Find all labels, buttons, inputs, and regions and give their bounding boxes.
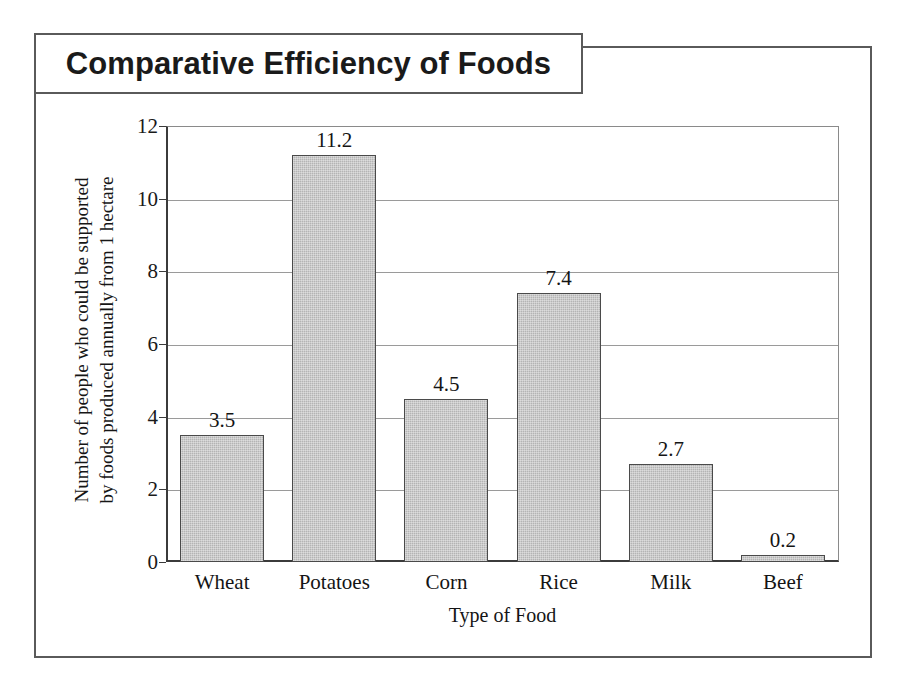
x-axis-category-label: Milk <box>611 570 731 595</box>
bar-value-label: 4.5 <box>396 372 496 397</box>
y-axis-tick-label: 2 <box>118 477 158 502</box>
y-axis-tick-label: 0 <box>118 550 158 575</box>
y-axis-tick-mark <box>159 562 166 563</box>
bar-value-label: 0.2 <box>733 528 833 553</box>
y-axis-tick-mark <box>159 489 166 490</box>
y-axis-tick-label: 12 <box>118 114 158 139</box>
bar-value-label: 2.7 <box>621 437 721 462</box>
y-axis-tick-label: 4 <box>118 404 158 429</box>
bar <box>741 555 825 562</box>
chart-title-box: Comparative Efficiency of Foods <box>34 33 583 94</box>
gridline <box>168 200 838 201</box>
bar-value-label: 7.4 <box>509 266 609 291</box>
chart-page: { "chart_data": { "type": "bar", "title"… <box>0 0 906 690</box>
y-axis-tick-label: 6 <box>118 332 158 357</box>
bar <box>517 293 601 562</box>
bar <box>180 435 264 562</box>
x-axis-category-label: Beef <box>723 570 843 595</box>
y-axis-tick-label: 8 <box>118 259 158 284</box>
x-axis-category-label: Corn <box>386 570 506 595</box>
x-axis-category-label: Potatoes <box>274 570 394 595</box>
x-axis-category-label: Rice <box>499 570 619 595</box>
bar <box>292 155 376 562</box>
bar <box>404 399 488 563</box>
y-axis-tick-label: 10 <box>118 186 158 211</box>
x-axis-title: Type of Food <box>166 604 839 627</box>
chart-title: Comparative Efficiency of Foods <box>66 46 551 82</box>
bar <box>629 464 713 562</box>
x-axis-category-label: Wheat <box>162 570 282 595</box>
y-axis-tick-mark <box>159 417 166 418</box>
bar-value-label: 11.2 <box>284 128 384 153</box>
y-axis-tick-mark <box>159 344 166 345</box>
plot-area <box>166 126 839 562</box>
y-axis-tick-mark <box>159 199 166 200</box>
gridline <box>168 490 838 491</box>
y-axis-title-label: Number of people who could be supported … <box>69 176 119 503</box>
gridline <box>168 272 838 273</box>
bar-value-label: 3.5 <box>172 408 272 433</box>
y-axis-tick-mark <box>159 271 166 272</box>
gridline <box>168 345 838 346</box>
y-axis-tick-mark <box>159 126 166 127</box>
y-axis-tick-labels: 024681012 <box>114 126 158 562</box>
